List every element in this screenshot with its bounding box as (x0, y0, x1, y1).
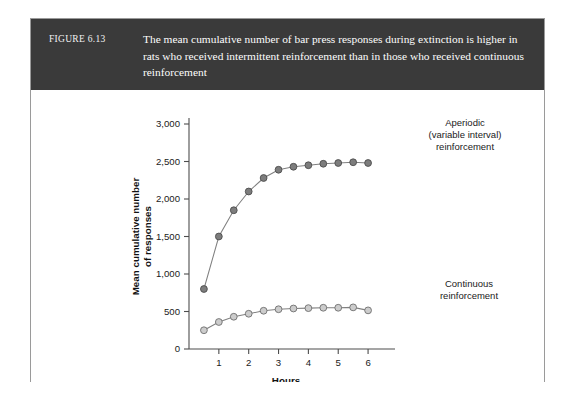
x-tick-label: 2 (246, 357, 251, 368)
y-tick-label: 0 (175, 343, 180, 354)
data-point (260, 307, 267, 314)
figure-header-band: FIGURE 6.13 The mean cumulative number o… (31, 19, 544, 90)
y-tick-label: 500 (164, 306, 180, 317)
data-point (201, 286, 208, 293)
y-axis-title-line: Mean cumulative number (130, 178, 141, 296)
figure-number-label: FIGURE 6.13 (49, 34, 106, 44)
x-tick-label: 1 (216, 357, 221, 368)
data-point (290, 305, 297, 312)
data-point (335, 304, 342, 311)
x-tick-label: 6 (365, 357, 370, 368)
data-point (215, 233, 222, 240)
line-chart: 05001,0001,5002,0002,5003,000 123456 Hou… (31, 90, 544, 382)
y-axis-title: Mean cumulative numberof responses (130, 178, 153, 296)
data-point (230, 313, 237, 320)
annotation-line: (variable interval) (429, 129, 502, 140)
data-point (215, 319, 222, 326)
data-point (350, 304, 357, 311)
data-point (365, 307, 372, 314)
y-tick-label: 1,500 (156, 231, 180, 242)
chart-series-group (201, 159, 372, 334)
annotation-line: Continuous (445, 278, 493, 289)
data-point (201, 327, 208, 334)
x-axis: 123456 (189, 349, 395, 368)
annotation-aperiodic: Aperiodic(variable interval)reinforcemen… (429, 117, 502, 152)
y-tick-label: 1,000 (156, 268, 180, 279)
data-point (290, 163, 297, 170)
y-axis: 05001,0001,5002,0002,5003,000 (156, 118, 189, 354)
data-point (335, 160, 342, 167)
figure-container: FIGURE 6.13 The mean cumulative number o… (30, 18, 545, 382)
x-tick-label: 3 (276, 357, 281, 368)
series-1 (201, 304, 372, 334)
data-point (245, 310, 252, 317)
data-point (230, 207, 237, 214)
series-0 (201, 159, 372, 293)
y-tick-label: 2,500 (156, 156, 180, 167)
y-tick-label: 3,000 (156, 118, 180, 129)
annotation-line: reinforcement (440, 290, 498, 301)
annotation-continuous: Continuousreinforcement (440, 278, 498, 301)
annotation-line: Aperiodic (445, 117, 485, 128)
x-tick-label: 4 (306, 357, 312, 368)
y-axis-title-line: of responses (142, 205, 153, 267)
data-point (275, 306, 282, 313)
series-line (204, 307, 368, 330)
annotation-line: reinforcement (436, 141, 494, 152)
data-point (245, 188, 252, 195)
chart-plot-area: 05001,0001,5002,0002,5003,000 123456 Hou… (31, 90, 544, 382)
data-point (260, 175, 267, 182)
data-point (275, 166, 282, 173)
y-tick-label: 2,000 (156, 193, 180, 204)
data-point (350, 159, 357, 166)
data-point (305, 162, 312, 169)
data-point (320, 160, 327, 167)
x-tick-label: 5 (336, 357, 341, 368)
figure-caption: The mean cumulative number of bar press … (143, 31, 528, 81)
x-axis-title: Hours (272, 375, 301, 382)
data-point (320, 304, 327, 311)
data-point (305, 305, 312, 312)
axis-titles: HoursMean cumulative numberof responses (130, 178, 301, 382)
data-point (365, 160, 372, 167)
chart-annotations: Aperiodic(variable interval)reinforcemen… (429, 117, 502, 301)
series-line (204, 162, 368, 289)
